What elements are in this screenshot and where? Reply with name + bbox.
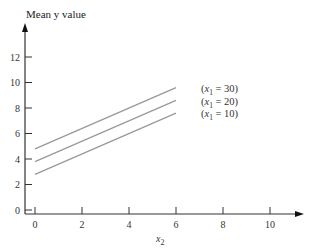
- x-tick-label: 2: [80, 219, 85, 230]
- y-tick-label: 12: [10, 52, 20, 63]
- series-line: [35, 88, 176, 149]
- series-line: [35, 113, 176, 174]
- y-tick-label: 0: [15, 205, 20, 216]
- y-axis-arrow-icon: [22, 23, 28, 32]
- x-tick-label: 6: [174, 219, 179, 230]
- x-tick-label: 0: [33, 219, 38, 230]
- series-line: [35, 100, 176, 161]
- y-tick-label: 8: [15, 103, 20, 114]
- series-lines: [35, 88, 176, 175]
- y-tick-label: 6: [15, 128, 20, 139]
- axes: 0246810120246810: [10, 23, 304, 230]
- x-tick-label: 4: [127, 219, 132, 230]
- y-tick-label: 2: [15, 179, 20, 190]
- series-label: (x1 = 10): [201, 108, 239, 122]
- chart: 0246810120246810 (x1 = 30)(x1 = 20)(x1 =…: [0, 0, 317, 251]
- y-tick-label: 4: [15, 154, 20, 165]
- x-axis-arrow-icon: [295, 211, 304, 217]
- y-tick-label: 10: [10, 77, 20, 88]
- x-axis-label: x2: [155, 233, 164, 247]
- x-tick-label: 10: [265, 219, 275, 230]
- legend-labels: (x1 = 30)(x1 = 20)(x1 = 10): [201, 83, 239, 122]
- x-tick-label: 8: [221, 219, 226, 230]
- y-axis-label: Mean y value: [26, 8, 86, 20]
